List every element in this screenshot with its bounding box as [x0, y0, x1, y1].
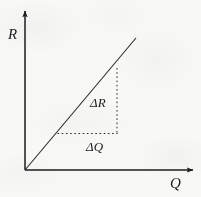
- data-line: [25, 38, 136, 170]
- delta-q-label: ΔQ: [86, 140, 103, 153]
- delta-r-label: ΔR: [90, 96, 106, 109]
- y-axis-label: R: [8, 27, 17, 42]
- x-axis-label: Q: [170, 176, 181, 191]
- graph-figure: R Q ΔR ΔQ: [0, 0, 201, 197]
